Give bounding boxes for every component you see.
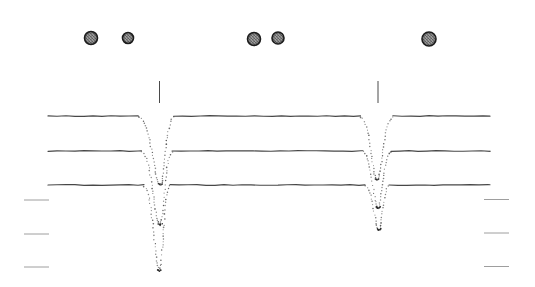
dip-dot (370, 176, 371, 177)
dip-dot (166, 172, 167, 173)
dip-dot (371, 199, 372, 200)
dip-dot (165, 199, 167, 201)
dip-vertex-dot (379, 206, 381, 208)
dip-dot (381, 217, 382, 218)
dip-dot (149, 174, 150, 175)
dip-dot (157, 181, 159, 183)
dip-dot (373, 171, 375, 173)
dip-dot (387, 123, 389, 125)
dip-dot (164, 197, 165, 198)
dip-dot (389, 120, 391, 122)
dip-dot (149, 139, 150, 140)
figure-svg (0, 0, 535, 287)
dip-dot (155, 168, 157, 170)
dip-dot (163, 201, 164, 202)
dip-dot (386, 159, 387, 160)
dip-dot (162, 247, 163, 248)
dip-dot (373, 211, 374, 212)
dip-dot (381, 161, 382, 162)
dip-dot (383, 178, 385, 180)
dip-dot (157, 265, 159, 267)
dip-dot (360, 117, 362, 119)
dip-dot (162, 233, 163, 234)
dip-dot (375, 223, 376, 224)
dip-dot (163, 226, 165, 228)
dip-dot (367, 187, 368, 188)
dip-dot (165, 180, 166, 181)
dip-dot (167, 131, 168, 132)
dip-dot (165, 202, 166, 203)
dip-dot (166, 194, 167, 195)
dip-dot (375, 220, 376, 221)
dip-dot (164, 205, 166, 207)
dip-dot (164, 193, 165, 194)
dip-dot (154, 204, 156, 206)
dip-dot (148, 194, 149, 195)
dip-dot (163, 168, 165, 170)
dip-dot (163, 241, 164, 242)
dip-dot (383, 205, 385, 207)
dip-vertex-dot (160, 224, 162, 226)
dip-dot (373, 165, 374, 166)
dip-dot (379, 170, 381, 172)
dip-dot (170, 124, 171, 125)
dip-dot (166, 167, 168, 169)
dip-dot (143, 186, 145, 188)
dip-dot (386, 126, 387, 127)
dip-dot (167, 192, 168, 193)
dip-dot (148, 164, 149, 165)
dip-dot (368, 134, 370, 136)
dip-vertex-dot (162, 223, 164, 225)
dip-dot (154, 165, 155, 166)
dip-dot (372, 208, 373, 209)
dip-dot (162, 182, 163, 183)
dip-dot (148, 137, 149, 138)
dip-dot (166, 170, 167, 171)
dip-dot (160, 265, 161, 266)
dip-dot (371, 161, 372, 162)
dip-dot (164, 154, 166, 156)
dip-dot (160, 259, 162, 261)
dip-dot (385, 194, 386, 195)
dip-dot (163, 205, 165, 207)
dip-dot (373, 173, 374, 174)
dip-dot (153, 196, 155, 198)
dip-dot (370, 173, 371, 174)
dip-dot (164, 213, 166, 215)
dip-dot (375, 175, 377, 177)
dip-dot (146, 127, 148, 129)
dip-dot (380, 164, 382, 166)
dip-dot (382, 155, 383, 156)
dip-dot (155, 243, 156, 244)
dip-dot (383, 172, 385, 174)
dip-dot (146, 158, 147, 159)
dip-dot (152, 191, 153, 192)
dip-vertex-dot (380, 228, 382, 230)
dip-dot (151, 177, 153, 179)
dip-dot (382, 184, 384, 186)
dip-dot (156, 218, 157, 219)
dip-dot (141, 118, 142, 119)
dip-dot (157, 219, 159, 221)
dip-vertex-dot (378, 178, 379, 179)
dip-dot (371, 150, 372, 151)
dip-dot (144, 156, 146, 158)
dip-dot (155, 246, 156, 247)
dip-dot (375, 203, 377, 205)
dip-dot (165, 184, 166, 185)
dip-dot (153, 231, 155, 233)
light-curve-baseline (48, 116, 139, 117)
dip-dot (369, 146, 370, 147)
dip-dot (151, 188, 153, 190)
dip-dot (152, 227, 154, 229)
dip-dot (367, 133, 369, 135)
dip-dot (151, 148, 152, 149)
dip-dot (382, 149, 383, 150)
dip-dot (379, 204, 380, 205)
dip-dot (156, 256, 158, 258)
dip-dot (371, 180, 372, 181)
dip-dot (376, 227, 377, 228)
dip-dot (160, 221, 161, 222)
dip-dot (372, 204, 373, 205)
dip-dot (149, 203, 150, 204)
